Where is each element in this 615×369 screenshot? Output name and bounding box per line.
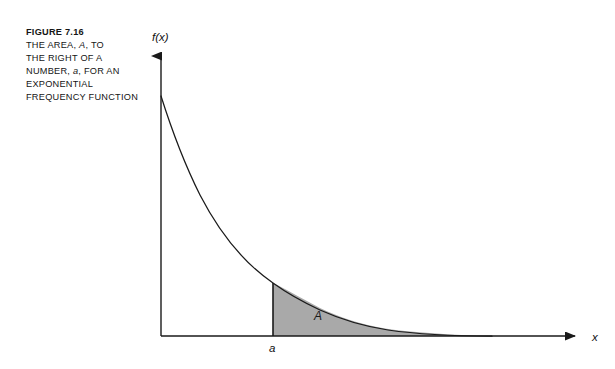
x-tick-label-a: a (269, 342, 275, 354)
x-axis-label: x (591, 331, 599, 343)
exponential-curve (161, 96, 492, 336)
shaded-area-region (273, 283, 492, 336)
exponential-distribution-plot: f(x) x a A (0, 0, 615, 369)
y-axis-label: f(x) (152, 31, 169, 43)
area-label-A: A (313, 309, 322, 323)
figure-container: FIGURE 7.16 THE AREA, A, TO THE RIGHT OF… (0, 0, 615, 369)
